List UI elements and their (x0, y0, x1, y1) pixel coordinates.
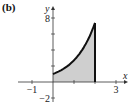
y-tick-label: −2 (39, 93, 50, 104)
y-axis-arrow-icon (51, 6, 55, 10)
y-axis-label: y (44, 3, 50, 14)
x-tick-label: −1 (27, 84, 38, 95)
shaded-region (53, 23, 95, 82)
x-axis-label: x (122, 70, 128, 81)
chart-plot: −138−2xy (0, 0, 129, 106)
y-tick-label: 8 (45, 13, 50, 24)
x-tick-label: 3 (114, 84, 119, 95)
